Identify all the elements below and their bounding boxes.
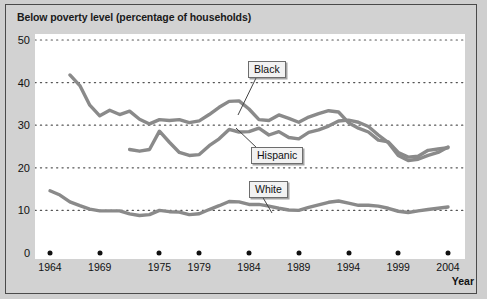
series-callout-black: Black	[248, 61, 286, 78]
x-tick-dot	[296, 251, 301, 256]
x-tick-dot	[48, 251, 53, 256]
x-tick-label: 1969	[77, 261, 123, 273]
chart-figure: Below poverty level (percentage of house…	[0, 0, 487, 299]
x-axis-title: Year	[452, 275, 474, 287]
series-callout-hispanic: Hispanic	[251, 147, 303, 164]
x-tick-label: 1979	[176, 261, 222, 273]
y-tick-label: 20	[6, 162, 30, 174]
y-tick-label: 40	[6, 77, 30, 89]
x-tick-dot	[157, 251, 162, 256]
x-tick-dot	[97, 251, 102, 256]
x-tick-dot	[446, 251, 451, 256]
x-tick-label: 1989	[276, 261, 322, 273]
y-tick-label: 10	[6, 204, 30, 216]
x-tick-dot	[197, 251, 202, 256]
x-tick-dot	[247, 251, 252, 256]
y-tick-label: 50	[6, 34, 30, 46]
x-tick-label: 1984	[226, 261, 272, 273]
x-tick-label: 1964	[27, 261, 73, 273]
x-tick-label: 1999	[375, 261, 421, 273]
x-tick-dot	[396, 251, 401, 256]
series-callout-white: White	[249, 181, 288, 198]
x-tick-dot	[346, 251, 351, 256]
y-tick-label: 30	[6, 119, 30, 131]
x-tick-label: 1994	[326, 261, 372, 273]
y-tick-label: 0	[6, 247, 30, 259]
chart-title: Below poverty level (percentage of house…	[17, 11, 251, 23]
x-tick-label: 2004	[425, 261, 471, 273]
